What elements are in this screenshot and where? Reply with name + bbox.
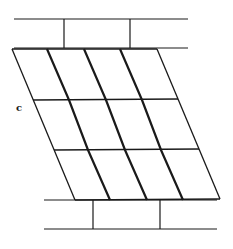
figure-label: c: [16, 102, 22, 113]
top-band: [14, 19, 188, 48]
brick-shear-diagram: [0, 0, 233, 249]
bottom-band: [44, 200, 217, 229]
sheared-grid: [12, 49, 220, 200]
